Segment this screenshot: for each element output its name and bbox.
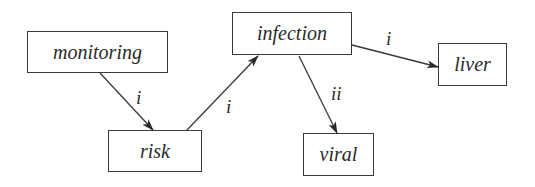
- node-label: liver: [454, 53, 491, 76]
- node-label: risk: [140, 140, 170, 163]
- diagram-canvas: monitoring risk infection viral liver i …: [0, 0, 535, 187]
- edge-label-risk-infection: i: [226, 97, 231, 116]
- node-liver: liver: [438, 43, 507, 86]
- edge-label-infection-liver: i: [386, 29, 391, 48]
- node-risk: risk: [108, 130, 202, 172]
- edge-label-monitoring-risk: i: [136, 88, 141, 107]
- node-label: viral: [320, 143, 358, 166]
- node-label: infection: [257, 22, 327, 45]
- node-infection: infection: [232, 12, 352, 55]
- edge-risk-infection: [187, 56, 258, 130]
- node-label: monitoring: [53, 41, 142, 64]
- node-monitoring: monitoring: [27, 31, 168, 73]
- node-viral: viral: [303, 133, 374, 176]
- edge-monitoring-risk: [100, 73, 153, 130]
- edge-infection-liver: [352, 45, 438, 67]
- edge-label-infection-viral: ii: [331, 84, 342, 103]
